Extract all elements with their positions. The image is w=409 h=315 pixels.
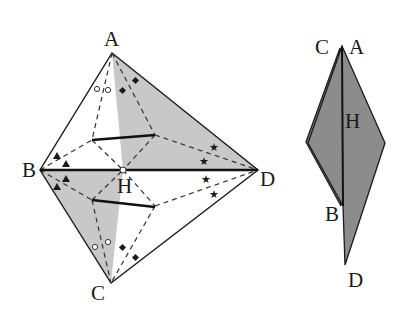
label-c-right: C bbox=[315, 35, 329, 59]
label-a-right: A bbox=[349, 35, 365, 59]
label-h: H bbox=[117, 174, 132, 198]
svg-text:★: ★ bbox=[209, 141, 219, 154]
label-d-right: D bbox=[348, 268, 363, 292]
svg-text:★: ★ bbox=[199, 155, 209, 168]
svg-text:★: ★ bbox=[201, 173, 211, 186]
right-diagram: C A H B D bbox=[306, 35, 385, 292]
left-diagram: ★ ★ ★ ★ A B H D C bbox=[22, 27, 275, 305]
fold-line-ab bbox=[342, 46, 343, 206]
label-b-right: B bbox=[325, 202, 339, 226]
shaded-face-lower bbox=[40, 170, 123, 283]
label-d: D bbox=[260, 167, 275, 191]
svg-text:★: ★ bbox=[209, 188, 219, 201]
label-a: A bbox=[104, 27, 120, 51]
label-c: C bbox=[91, 281, 105, 305]
point-h-icon bbox=[120, 167, 126, 173]
folded-shape-front bbox=[308, 46, 385, 265]
folding-diagram: ★ ★ ★ ★ A B H D C C A H B D bbox=[0, 0, 409, 315]
label-h-right: H bbox=[345, 109, 360, 133]
label-b: B bbox=[22, 158, 36, 182]
